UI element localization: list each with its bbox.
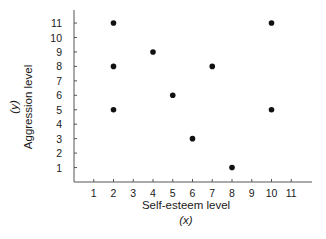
y-tick-label: 5 xyxy=(56,104,62,116)
x-axis-label: Self-esteem level xyxy=(142,199,230,211)
scatter-chart: 1234567891011 1234567891011 Self-esteem … xyxy=(0,0,326,239)
x-tick-label: 3 xyxy=(130,187,136,199)
data-point xyxy=(269,20,275,26)
x-tick-label: 2 xyxy=(111,187,117,199)
x-tick-label: 7 xyxy=(209,187,215,199)
y-tick-label: 4 xyxy=(56,118,62,130)
y-axis-ticks: 1234567891011 xyxy=(50,17,77,174)
x-axis-variable: (x) xyxy=(179,214,193,226)
y-axis-label: Aggression level xyxy=(22,65,34,149)
data-point xyxy=(170,93,176,99)
x-tick-label: 10 xyxy=(266,187,278,199)
data-point xyxy=(209,64,215,70)
data-point xyxy=(111,107,117,113)
data-point xyxy=(111,20,117,26)
y-tick-label: 1 xyxy=(56,162,62,174)
data-point xyxy=(190,136,196,142)
data-point xyxy=(150,49,156,55)
y-tick-label: 8 xyxy=(56,60,62,72)
data-point xyxy=(269,107,275,113)
x-tick-label: 9 xyxy=(249,187,255,199)
x-tick-label: 1 xyxy=(91,187,97,199)
y-tick-label: 9 xyxy=(56,46,62,58)
y-tick-label: 6 xyxy=(56,89,62,101)
data-point xyxy=(229,165,235,171)
y-tick-label: 3 xyxy=(56,133,62,145)
data-point xyxy=(111,64,117,70)
x-tick-label: 6 xyxy=(190,187,196,199)
x-tick-label: 5 xyxy=(170,187,176,199)
y-tick-label: 10 xyxy=(50,32,62,44)
x-tick-label: 11 xyxy=(286,187,297,199)
y-tick-label: 7 xyxy=(56,75,62,87)
x-axis-title: Self-esteem level (x) xyxy=(142,199,230,226)
data-points xyxy=(111,20,275,170)
y-axis-title: Aggression level (y) xyxy=(8,65,34,149)
x-tick-label: 4 xyxy=(150,187,156,199)
y-axis-variable: (y) xyxy=(8,100,20,114)
axes xyxy=(74,10,312,182)
y-tick-label: 11 xyxy=(51,17,62,29)
y-tick-label: 2 xyxy=(56,147,62,159)
x-tick-label: 8 xyxy=(229,187,235,199)
